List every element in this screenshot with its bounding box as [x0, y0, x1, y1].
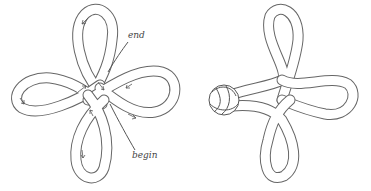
- end-label: end: [128, 30, 145, 40]
- button-knot: [209, 85, 239, 115]
- arrow-icon: [81, 150, 85, 158]
- right-knot-figure: [209, 9, 353, 177]
- knot-diagram: [0, 0, 371, 191]
- left-bottom-loop: [76, 95, 107, 178]
- begin-label: begin: [132, 150, 158, 160]
- right-bottom-loop: [232, 100, 294, 178]
- arrow-icon: [126, 84, 132, 88]
